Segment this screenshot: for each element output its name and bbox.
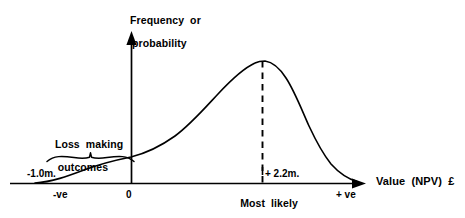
x-axis-origin-tick-label: 0	[126, 190, 132, 201]
x-axis-negative-tick-label: -ve	[53, 190, 67, 201]
most-likely-value-label: Most likely value	[215, 187, 311, 218]
loss-making-outcomes-label: Loss making outcomes	[35, 128, 131, 196]
negative-value-annotation: -1.0m.	[27, 169, 56, 180]
y-axis-title-line-1: Frequency or	[130, 14, 201, 26]
mode-label-line-1: Most likely	[240, 197, 298, 209]
y-axis-title-line-2: probability	[118, 38, 201, 49]
figure-canvas: Frequency or probability Loss making out…	[0, 0, 465, 218]
y-axis-title: Frequency or probability	[118, 4, 201, 72]
loss-label-line-1: Loss making	[55, 138, 123, 150]
x-axis-title: Value (NPV) £	[376, 176, 455, 188]
peak-value-annotation: + 2.2m.	[265, 169, 299, 180]
x-axis-positive-tick-label: + ve	[336, 190, 356, 201]
